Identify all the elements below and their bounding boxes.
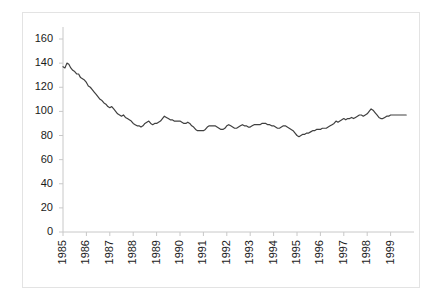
- y-tick-label: 80: [23, 130, 53, 141]
- x-tick-label: 1988: [127, 240, 138, 264]
- y-tick-label: 40: [23, 178, 53, 189]
- y-axis-ticks: [59, 39, 63, 232]
- x-tick-label: 1986: [80, 240, 91, 264]
- x-tick-label: 1989: [151, 240, 162, 264]
- y-tick-label: 0: [23, 226, 53, 237]
- x-tick-label: 1990: [174, 240, 185, 264]
- y-tick-label: 160: [23, 33, 53, 44]
- x-tick-label: 1993: [244, 240, 255, 264]
- data-series-line: [63, 63, 406, 137]
- x-tick-label: 1996: [314, 240, 325, 264]
- x-tick-label: 1992: [221, 240, 232, 264]
- x-tick-label: 1997: [338, 240, 349, 264]
- y-tick-label: 100: [23, 105, 53, 116]
- y-tick-label: 20: [23, 202, 53, 213]
- x-tick-label: 1991: [197, 240, 208, 264]
- x-tick-label: 1998: [361, 240, 372, 264]
- x-tick-label: 1995: [291, 240, 302, 264]
- y-tick-label: 140: [23, 57, 53, 68]
- x-tick-label: 1994: [268, 240, 279, 264]
- chart-figure: 160140120100806040200 198519861987198819…: [0, 0, 437, 304]
- x-tick-label: 1985: [57, 240, 68, 264]
- x-axis-ticks: [63, 232, 391, 236]
- chart-plot-frame: 160140120100806040200 198519861987198819…: [22, 12, 420, 288]
- y-tick-label: 60: [23, 154, 53, 165]
- x-tick-label: 1999: [385, 240, 396, 264]
- y-tick-label: 120: [23, 81, 53, 92]
- x-tick-label: 1987: [104, 240, 115, 264]
